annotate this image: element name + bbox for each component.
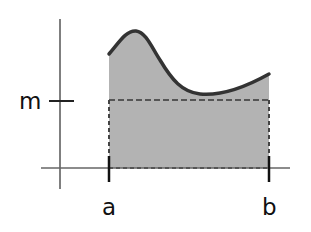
b-label: b xyxy=(262,194,277,220)
m-label: m xyxy=(19,88,41,114)
a-label: a xyxy=(102,194,116,220)
diagram-canvas: m a b xyxy=(0,0,311,232)
